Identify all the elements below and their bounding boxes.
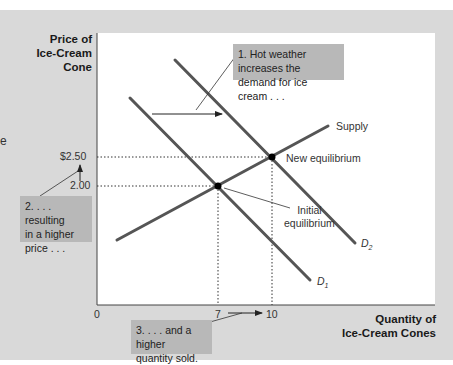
initial-eq-line2: equilibrium	[284, 217, 335, 230]
new-equilibrium-point	[269, 154, 276, 161]
y-tick-200: 2.00	[70, 179, 90, 191]
callout3-line2: quantity sold.	[136, 351, 207, 365]
x-title-line1: Quantity of	[330, 312, 436, 326]
x-axis-title: Quantity of Ice-Cream Cones	[330, 312, 436, 340]
d1-sub: 1	[325, 282, 329, 289]
callout-higher-quantity: 3. . . . and a higher quantity sold.	[131, 320, 212, 354]
x-tick-10: 10	[266, 308, 278, 320]
d2-label: D2	[361, 237, 373, 251]
initial-equilibrium-point	[215, 183, 222, 190]
callout2-line1: 2. . . . resulting	[25, 199, 87, 227]
d1-main: D	[317, 275, 325, 287]
d1-label: D1	[317, 275, 329, 289]
callout2-line2: in a higher	[25, 227, 87, 241]
callout3-line1: 3. . . . and a higher	[136, 323, 207, 351]
y-title-line2: Ice-Cream	[20, 46, 92, 60]
y-axis-title: Price of Ice-Cream Cone	[20, 32, 92, 74]
demand-curve-d1	[130, 98, 310, 280]
new-equilibrium-label: New equilibrium	[286, 152, 361, 164]
callout-demand-increase: 1. Hot weather increases the demand for …	[233, 44, 344, 80]
d2-main: D	[361, 237, 369, 249]
y-tick-250: $2.50	[60, 150, 86, 162]
x-tick-7: 7	[215, 308, 221, 320]
callout-higher-price: 2. . . . resulting in a higher price . .…	[20, 196, 92, 242]
y-title-line1: Price of	[20, 32, 92, 46]
x-title-line2: Ice-Cream Cones	[330, 326, 436, 340]
initial-eq-line1: Initial	[284, 204, 335, 217]
edge-text-fragment: e	[0, 134, 7, 148]
supply-label: Supply	[336, 120, 368, 132]
y-title-line3: Cone	[20, 60, 92, 74]
callout2-line3: price . . .	[25, 241, 87, 255]
x-tick-origin: 0	[94, 308, 100, 320]
initial-equilibrium-label: Initial equilibrium	[284, 204, 335, 230]
d2-sub: 2	[369, 244, 373, 251]
callout1-line1: 1. Hot weather increases the	[238, 47, 339, 75]
callout1-line2: demand for ice cream . . .	[238, 75, 339, 103]
